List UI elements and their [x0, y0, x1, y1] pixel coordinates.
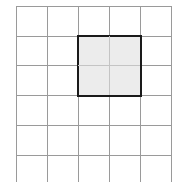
grid-line-horizontal [16, 6, 172, 7]
grid-line-horizontal [16, 155, 172, 156]
grid-line-horizontal [78, 65, 140, 66]
grid-line-horizontal [16, 125, 172, 126]
